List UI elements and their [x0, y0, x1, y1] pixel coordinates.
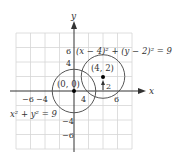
label-center-origin: (0, 0): [57, 79, 80, 89]
shift-arrow-label: 2: [106, 82, 111, 91]
x-axis-label: x: [149, 86, 154, 96]
equation-circle-shifted: (x − 4)² + (y − 2)² = 9: [76, 46, 173, 56]
y-axis-label: y: [70, 11, 77, 21]
coordinate-plane: x y 2 −6 −4 4 6 6 4 −4 −6 (0, 0) (4, 2) …: [0, 0, 180, 156]
x-tick-6: 6: [114, 95, 119, 104]
label-center-shifted: (4, 2): [91, 63, 114, 73]
x-tick-4: 4: [81, 95, 86, 104]
y-axis-arrow-icon: [71, 21, 77, 29]
equation-circle-origin: x² + y² = 9: [10, 109, 57, 119]
y-tick-neg4: −4: [62, 117, 74, 126]
x-axis-arrow-icon: [138, 88, 146, 94]
x-tick-neg4: −4: [36, 95, 48, 104]
y-tick-neg6: −6: [62, 131, 74, 140]
center-point-origin: [72, 89, 76, 93]
x-tick-neg6: −6: [22, 95, 34, 104]
center-point-shifted: [101, 75, 105, 79]
y-tick-4: 4: [66, 59, 71, 68]
shift-arrow-head-icon: [101, 80, 105, 85]
y-tick-6: 6: [66, 47, 71, 56]
